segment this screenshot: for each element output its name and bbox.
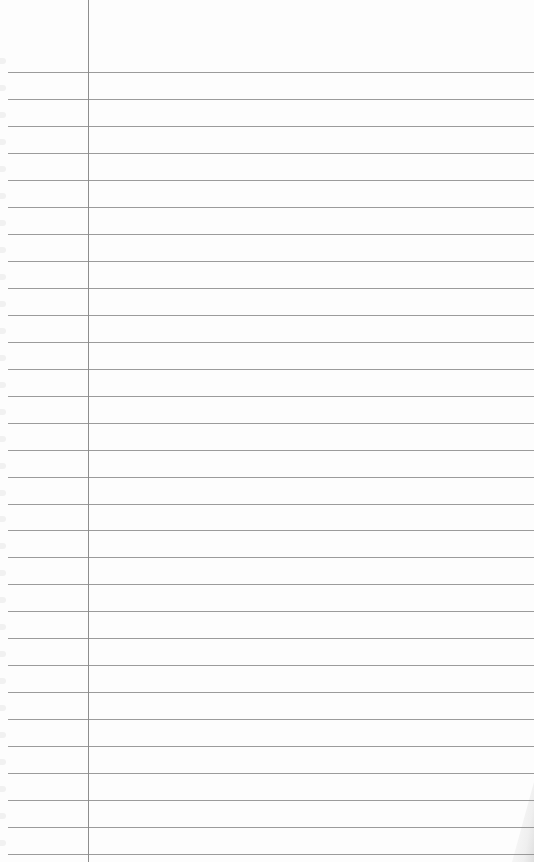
- ruled-line: [8, 530, 534, 531]
- ruled-line: [8, 126, 534, 127]
- ruled-line: [8, 665, 534, 666]
- lined-paper-sheet: [0, 0, 534, 862]
- paper-edge-notch: [0, 732, 6, 738]
- ruled-line: [8, 153, 534, 154]
- paper-edge-notch: [0, 624, 6, 630]
- ruled-line: [8, 396, 534, 397]
- paper-edge-notch: [0, 759, 6, 765]
- paper-edge-notch: [0, 166, 6, 172]
- paper-edge-notch: [0, 274, 6, 280]
- ruled-line: [8, 234, 534, 235]
- ruled-line: [8, 692, 534, 693]
- paper-edge-notch: [0, 139, 6, 145]
- ruled-line: [8, 746, 534, 747]
- paper-edge-notch: [0, 193, 6, 199]
- paper-edge-notch: [0, 58, 6, 64]
- paper-edge-notch: [0, 409, 6, 415]
- paper-edge-notch: [0, 516, 6, 522]
- ruled-line: [8, 288, 534, 289]
- ruled-line: [8, 827, 534, 828]
- ruled-line: [8, 638, 534, 639]
- ruled-line: [8, 557, 534, 558]
- ruled-line: [8, 369, 534, 370]
- paper-edge-notch: [0, 490, 6, 496]
- paper-edge-notch: [0, 678, 6, 684]
- ruled-line: [8, 584, 534, 585]
- ruled-line: [8, 261, 534, 262]
- paper-edge-notch: [0, 85, 6, 91]
- ruled-line: [8, 342, 534, 343]
- ruled-line: [8, 854, 534, 855]
- ruled-line: [8, 99, 534, 100]
- paper-edge-notch: [0, 112, 6, 118]
- ruled-line: [8, 207, 534, 208]
- ruled-line: [8, 800, 534, 801]
- page-corner-curl: [512, 782, 534, 862]
- ruled-line: [8, 180, 534, 181]
- paper-edge-notch: [0, 651, 6, 657]
- ruled-line: [8, 315, 534, 316]
- ruled-line: [8, 504, 534, 505]
- paper-edge-notch: [0, 247, 6, 253]
- paper-edge-notch: [0, 436, 6, 442]
- paper-edge-notch: [0, 328, 6, 334]
- paper-edge-notch: [0, 355, 6, 361]
- ruled-line: [8, 450, 534, 451]
- paper-edge-notch: [0, 840, 6, 846]
- ruled-line: [8, 773, 534, 774]
- paper-edge-notch: [0, 220, 6, 226]
- ruled-line: [8, 611, 534, 612]
- ruled-line: [8, 423, 534, 424]
- paper-edge-notch: [0, 382, 6, 388]
- margin-line: [88, 0, 89, 862]
- paper-edge-notch: [0, 813, 6, 819]
- ruled-line: [8, 477, 534, 478]
- paper-edge-notch: [0, 570, 6, 576]
- ruled-line: [8, 719, 534, 720]
- paper-edge-notch: [0, 597, 6, 603]
- ruled-line: [8, 72, 534, 73]
- paper-edge-notch: [0, 301, 6, 307]
- paper-edge-notch: [0, 705, 6, 711]
- paper-edge-notch: [0, 786, 6, 792]
- paper-edge-notch: [0, 463, 6, 469]
- paper-edge-notch: [0, 543, 6, 549]
